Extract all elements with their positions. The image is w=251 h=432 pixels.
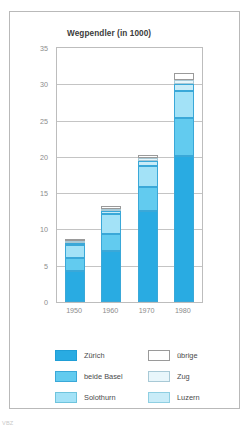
- bar-group[interactable]: [101, 48, 121, 302]
- bar-segment[interactable]: [101, 251, 121, 302]
- bar-segment[interactable]: [101, 214, 121, 234]
- bar-segment[interactable]: [174, 91, 194, 118]
- legend-item[interactable]: Luzern: [148, 392, 200, 403]
- y-axis-tick-label: 10: [40, 225, 48, 234]
- x-axis-tick-label: 1950: [66, 306, 82, 315]
- bar-segment[interactable]: [174, 118, 194, 156]
- y-axis-tick-label: 15: [40, 189, 48, 198]
- legend-item[interactable]: Zug: [148, 371, 190, 382]
- bar-segment[interactable]: [101, 206, 121, 209]
- y-axis: 05101520253035: [10, 47, 52, 303]
- x-axis-tick-label: 1970: [139, 306, 155, 315]
- legend-item[interactable]: beide Basel: [55, 371, 123, 382]
- legend-label: übrige: [177, 351, 198, 360]
- legend-label: Luzern: [177, 393, 200, 402]
- bar-segment[interactable]: [138, 158, 158, 161]
- y-axis-tick-label: 20: [40, 152, 48, 161]
- y-axis-tick-label: 0: [44, 298, 48, 307]
- legend-label: Solothurn: [84, 393, 116, 402]
- bar-segment[interactable]: [138, 166, 158, 187]
- bar-segment[interactable]: [174, 73, 194, 80]
- bar-segment[interactable]: [65, 271, 85, 302]
- legend-label: Zug: [177, 372, 190, 381]
- chart-legend: Zürichbeide BaselSolothurnübrigeZugLuzer…: [55, 350, 235, 408]
- bar-group[interactable]: [65, 48, 85, 302]
- legend-swatch-icon: [55, 392, 77, 403]
- bars-layer: [57, 48, 202, 302]
- y-axis-tick-label: 25: [40, 116, 48, 125]
- legend-swatch-icon: [148, 350, 170, 361]
- bar-segment[interactable]: [174, 156, 194, 302]
- legend-swatch-icon: [55, 350, 77, 361]
- bar-segment[interactable]: [101, 209, 121, 211]
- bar-segment[interactable]: [138, 155, 158, 158]
- legend-label: Zürich: [84, 351, 105, 360]
- y-axis-tick-label: 35: [40, 44, 48, 53]
- bar-segment[interactable]: [65, 243, 85, 245]
- bar-segment[interactable]: [138, 161, 158, 165]
- legend-swatch-icon: [148, 392, 170, 403]
- legend-swatch-icon: [55, 371, 77, 382]
- legend-swatch-icon: [148, 371, 170, 382]
- bar-segment[interactable]: [101, 234, 121, 251]
- chart-figure: Wegpendler (in 1000) 05101520253035 1950…: [9, 11, 240, 409]
- bar-segment[interactable]: [138, 187, 158, 211]
- plot-area: [56, 47, 203, 303]
- bar-segment[interactable]: [65, 258, 85, 271]
- x-axis: 1950196019701980: [56, 306, 203, 320]
- legend-item[interactable]: Solothurn: [55, 392, 116, 403]
- x-axis-tick-label: 1980: [175, 306, 191, 315]
- bar-segment[interactable]: [174, 80, 194, 84]
- bar-segment[interactable]: [101, 211, 121, 214]
- y-axis-tick-label: 30: [40, 80, 48, 89]
- y-axis-tick-label: 5: [44, 261, 48, 270]
- bar-segment[interactable]: [65, 239, 85, 241]
- bar-group[interactable]: [174, 48, 194, 302]
- legend-item[interactable]: übrige: [148, 350, 198, 361]
- legend-item[interactable]: Zürich: [55, 350, 105, 361]
- footer-note: VBZ: [2, 420, 13, 426]
- bar-segment[interactable]: [138, 211, 158, 302]
- chart-title: Wegpendler (in 1000): [67, 29, 151, 38]
- bar-group[interactable]: [138, 48, 158, 302]
- bar-segment[interactable]: [174, 84, 194, 91]
- bar-segment[interactable]: [65, 245, 85, 258]
- x-axis-tick-label: 1960: [102, 306, 118, 315]
- legend-label: beide Basel: [84, 372, 123, 381]
